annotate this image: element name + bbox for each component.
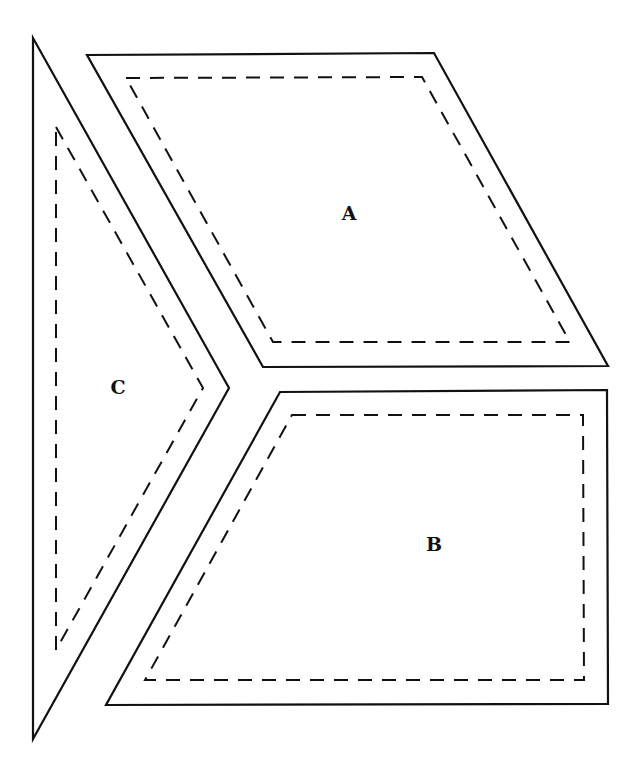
pattern-diagram: A B C: [0, 0, 641, 757]
piece-b-label: B: [426, 533, 442, 555]
piece-a-label: A: [341, 202, 357, 224]
piece-c: C: [33, 38, 229, 739]
piece-b: B: [106, 390, 608, 705]
piece-b-cut-line: [106, 390, 608, 705]
piece-c-label: C: [110, 376, 125, 398]
piece-b-seam-line: [145, 415, 584, 680]
piece-c-cut-line: [33, 38, 229, 739]
